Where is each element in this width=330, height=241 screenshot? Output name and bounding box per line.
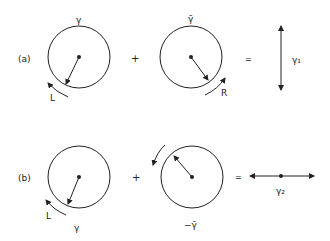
circle-symbol: γ (76, 15, 82, 25)
result-vertical: γ₁ (281, 26, 301, 90)
circle-symbol: γ̄ (188, 14, 194, 24)
equals-sign: = (235, 173, 242, 182)
row-b: (b) L γ + −γ̄ = γ₂ (18, 145, 314, 233)
equals-sign: = (245, 55, 252, 64)
circle-gamma: γ L (48, 15, 110, 103)
circle-gamma: L γ (46, 146, 110, 233)
vector-arrow-icon (191, 57, 208, 80)
circle-symbol: −γ̄ (184, 220, 198, 230)
polarization-diagram: (a) γ L + γ̄ R = γ₁ (b) (0, 0, 330, 241)
row-label: (b) (18, 173, 31, 183)
row-label: (a) (18, 54, 31, 64)
result-horizontal: γ₂ (250, 174, 314, 196)
rotation-label: L (46, 211, 51, 221)
circle-symbol: γ (74, 223, 80, 233)
vector-arrow-icon (174, 156, 192, 177)
rotation-arrow-icon (153, 145, 165, 165)
circle-gamma-bar: γ̄ R (160, 14, 227, 98)
circle-minus-gamma-bar: −γ̄ (153, 145, 223, 230)
result-symbol: γ₁ (292, 55, 301, 65)
vector-arrow-icon (68, 177, 79, 204)
plus-sign: + (132, 172, 140, 183)
rotation-label: L (50, 93, 55, 103)
rotation-label: R (221, 88, 227, 98)
plus-sign: + (131, 53, 139, 64)
vector-arrow-icon (66, 57, 79, 84)
row-a: (a) γ L + γ̄ R = γ₁ (18, 14, 301, 103)
result-symbol: γ₂ (276, 186, 285, 196)
